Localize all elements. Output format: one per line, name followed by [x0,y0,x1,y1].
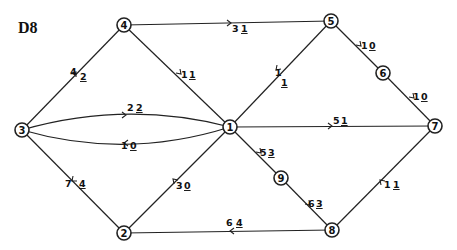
edge-labels: 4 2 3 1 1 1 1 1 1 0 1 0 2 2 1 0 5 1 5 3 … [65,23,428,228]
edge-label-1-3-b: 0 [130,140,137,151]
svg-text:4: 4 [121,20,128,31]
edge-label-4-5-b: 1 [241,23,248,34]
node-9: 9 [274,171,288,185]
node-6: 6 [376,66,390,80]
edge-label-1-2-a: 3 [176,180,183,191]
nodes: 1 2 3 4 5 6 7 8 9 [15,14,442,240]
edge-label-4-5-a: 3 [232,23,239,34]
svg-text:3: 3 [19,125,26,136]
edge-label-5-6-b: 0 [369,40,376,51]
edge-7-8 [332,126,435,230]
svg-text:9: 9 [278,173,285,184]
svg-text:1: 1 [227,122,234,133]
diagram-title: D8 [18,19,38,36]
edge-label-1-9-b: 3 [268,147,275,158]
edge-label-8-2-b: 4 [236,217,243,228]
arrow-2-3-icon [72,176,77,181]
node-4: 4 [117,18,131,32]
edge-label-3-4-b: 2 [80,71,87,82]
edge-label-5-6-a: 1 [361,40,368,51]
edge-3-4 [22,25,124,130]
svg-text:2: 2 [121,228,128,239]
svg-text:7: 7 [432,121,439,132]
edge-label-2-3-a: 7 [65,178,72,189]
edge-label-8-2-a: 6 [226,217,233,228]
network-diagram: D8 4 2 3 [0,0,457,250]
edge-label-1-9-a: 5 [260,147,267,158]
arrow-3-1-icon [122,112,126,118]
edge-label-6-7-a: 1 [413,91,420,102]
edge-8-2 [124,230,332,233]
node-7: 7 [428,119,442,133]
edge-label-7-8-b: 1 [393,179,400,190]
edge-label-2-3-b: 4 [79,178,86,189]
edge-label-5-1-b: 1 [281,77,288,88]
edge-label-9-8-a: 6 [308,198,315,209]
edge-label-1-7-b: 1 [341,115,348,126]
edge-label-6-7-b: 0 [421,91,428,102]
svg-text:6: 6 [380,68,387,79]
edge-label-4-1-a: 1 [181,69,188,80]
edge-label-4-1-b: 1 [189,69,196,80]
node-2: 2 [117,226,131,240]
node-3: 3 [15,123,29,137]
edge-3-1-upper [22,114,230,130]
edge-label-1-7-a: 5 [333,115,340,126]
node-5: 5 [324,14,338,28]
svg-text:5: 5 [328,16,335,27]
edge-label-3-1-a: 2 [127,102,134,113]
edge-label-9-8-b: 3 [316,198,323,209]
edge-label-1-3-a: 1 [121,140,128,151]
edge-label-1-2-b: 0 [184,180,191,191]
node-8: 8 [325,223,339,237]
edge-label-3-4-a: 4 [70,66,77,77]
edge-4-5 [124,21,331,25]
svg-text:8: 8 [329,225,336,236]
node-1: 1 [223,120,237,134]
edge-label-7-8-a: 1 [384,179,391,190]
edge-label-3-1-b: 2 [136,102,143,113]
